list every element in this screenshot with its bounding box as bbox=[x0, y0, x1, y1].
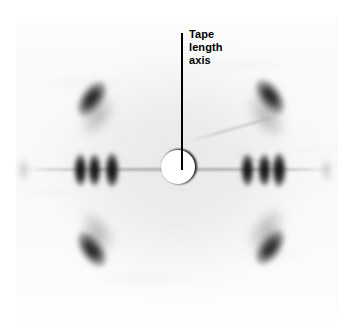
equatorial-spot-left-3 bbox=[105, 153, 119, 187]
equatorial-spot-right-2 bbox=[258, 154, 271, 186]
tape-length-axis-line bbox=[181, 33, 183, 170]
tape-length-axis-label-line-1: Tape bbox=[189, 28, 223, 41]
equatorial-spot-right-1 bbox=[241, 154, 254, 186]
beam-stop bbox=[161, 150, 195, 184]
equatorial-spot-right-3 bbox=[272, 153, 286, 187]
equatorial-spot-left-1 bbox=[74, 154, 87, 186]
diffraction-figure: Tape length axis bbox=[0, 0, 356, 335]
tape-length-axis-label: Tape length axis bbox=[189, 28, 223, 67]
equatorial-spot-left-2 bbox=[88, 154, 101, 186]
equatorial-spot-far-right bbox=[321, 159, 332, 181]
tape-length-axis-label-line-2: length bbox=[189, 41, 223, 54]
equatorial-spot-far-left bbox=[18, 159, 29, 181]
tape-length-axis-label-line-3: axis bbox=[189, 54, 223, 67]
